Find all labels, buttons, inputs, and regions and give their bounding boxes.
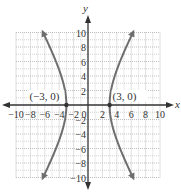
vertex-point: [107, 103, 111, 107]
x-tick-label: 8: [143, 109, 148, 120]
vertex-label: (3, 0): [113, 90, 137, 103]
x-tick-label: −8: [25, 109, 36, 120]
hyperbola-chart: x y −10−8−6−4−20246810−10−8−6−4−2246810 …: [0, 0, 181, 192]
y-axis-arrow-up-icon: [85, 15, 91, 23]
x-axis-arrow-right-icon: [166, 102, 174, 108]
y-tick-label: −2: [75, 115, 86, 126]
x-axis-label: x: [174, 98, 180, 110]
x-tick-label: −6: [39, 109, 50, 120]
x-axis-arrow-left-icon: [2, 102, 10, 108]
y-axis-label: y: [82, 2, 88, 14]
x-tick-label: −10: [8, 109, 24, 120]
y-tick-label: 6: [81, 57, 86, 68]
x-tick-label: 4: [114, 109, 119, 120]
y-tick-label: 8: [81, 42, 86, 53]
vertex-label: (−3, 0): [29, 90, 59, 103]
x-tick-label: 10: [155, 109, 165, 120]
vertex-point: [64, 103, 68, 107]
x-tick-label: −4: [54, 109, 65, 120]
x-tick-label: 6: [129, 109, 134, 120]
y-tick-label: 10: [76, 28, 86, 39]
y-tick-label: −4: [75, 129, 86, 140]
y-tick-label: −6: [75, 144, 86, 155]
y-tick-label: −10: [70, 173, 86, 184]
y-tick-label: 2: [81, 86, 86, 97]
y-tick-label: −8: [75, 158, 86, 169]
x-tick-label: 2: [100, 109, 105, 120]
y-tick-label: 4: [81, 71, 86, 82]
